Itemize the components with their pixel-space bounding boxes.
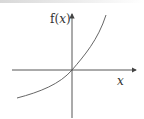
x-axis-label: x xyxy=(117,74,124,88)
function-graph: f(x) x xyxy=(0,0,144,119)
function-curve xyxy=(17,15,106,98)
y-axis-label: f(x) xyxy=(50,12,71,26)
